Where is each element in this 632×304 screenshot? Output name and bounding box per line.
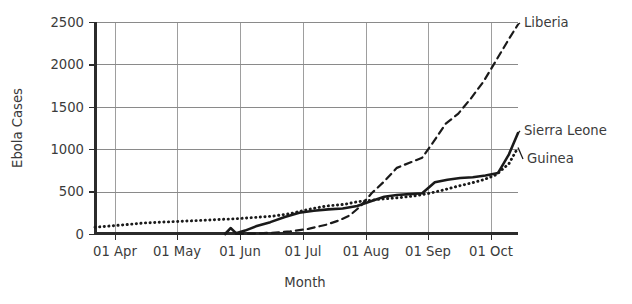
series-line-liberia	[236, 25, 518, 234]
data-series-group	[95, 25, 518, 234]
vertical-gridlines	[116, 22, 492, 234]
y-tick-label-1: 500	[59, 184, 84, 199]
series-direct-labels: GuineaLiberiaSierra Leone	[524, 15, 607, 166]
y-tick-label-2: 1000	[50, 142, 84, 157]
x-tick-label-5: 01 Sep	[405, 244, 451, 259]
series-label-sierra-leone: Sierra Leone	[524, 123, 607, 138]
x-axis-title: Month	[284, 275, 325, 290]
series-line-guinea	[95, 148, 518, 228]
x-tick-label-2: 01 Jun	[219, 244, 261, 259]
x-tick-label-3: 01 Jul	[285, 244, 322, 259]
y-tick-label-3: 1500	[50, 100, 84, 115]
x-tick-label-0: 01 Apr	[93, 244, 137, 259]
x-tick-label-6: 01 Oct	[469, 244, 513, 259]
leader-line-liberia	[518, 23, 520, 25]
chart-canvas: 05001000150020002500 01 Apr01 May01 Jun0…	[0, 0, 632, 304]
y-tick-label-5: 2500	[50, 15, 84, 30]
horizontal-gridlines	[95, 23, 518, 193]
x-tick-marks	[116, 234, 492, 240]
y-axis-title: Ebola Cases	[10, 88, 25, 168]
series-label-liberia: Liberia	[524, 15, 569, 30]
x-axis-tick-labels: 01 Apr01 May01 Jun01 Jul01 Aug01 Sep01 O…	[93, 244, 513, 259]
ebola-cases-line-chart: 05001000150020002500 01 Apr01 May01 Jun0…	[0, 0, 632, 304]
y-tick-label-4: 2000	[50, 57, 84, 72]
x-tick-label-4: 01 Aug	[343, 244, 390, 259]
y-axis-tick-labels: 05001000150020002500	[50, 15, 84, 242]
leader-line-sierra-leone	[518, 131, 520, 133]
x-tick-label-1: 01 May	[153, 244, 201, 259]
leader-line-guinea	[518, 148, 523, 160]
y-tick-label-0: 0	[76, 227, 84, 242]
series-leader-lines	[518, 23, 523, 159]
y-tick-marks	[89, 23, 95, 235]
series-label-guinea: Guinea	[527, 151, 574, 166]
